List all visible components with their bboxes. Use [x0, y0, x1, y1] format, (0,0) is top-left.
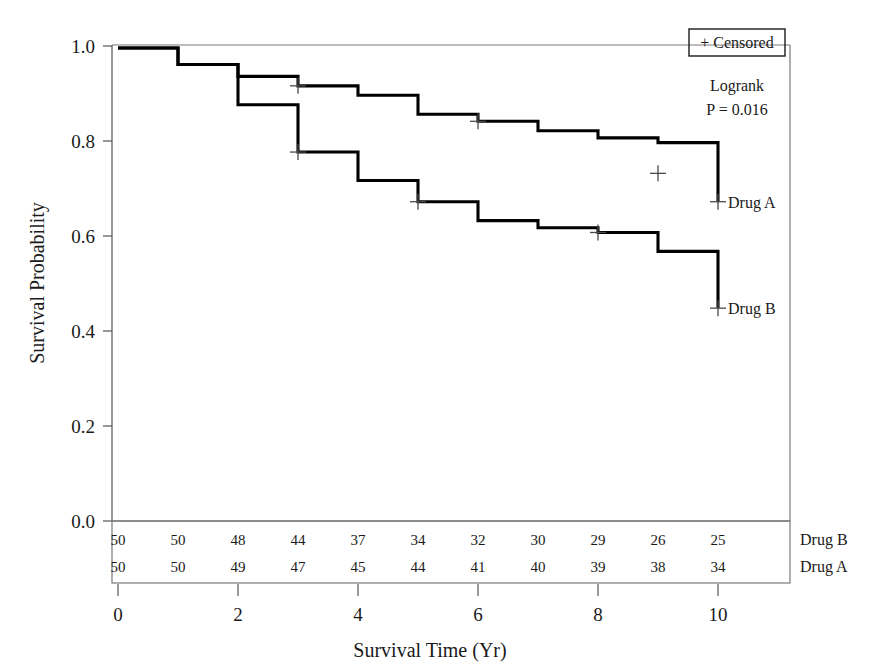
risk-table: 5050484437343230292625505049474544414039… [111, 521, 849, 583]
risk-count: 29 [591, 532, 606, 548]
y-tick-label-4: 0.8 [71, 131, 95, 152]
y-tick-group-2: 0.4 [71, 321, 112, 342]
series-label-drug-a: Drug A [728, 194, 776, 212]
risk-count: 26 [651, 532, 667, 548]
y-tick-group-3: 0.6 [71, 226, 112, 247]
survival-chart-figure: 0.0 0.2 0.4 0.6 0.8 1.0 Survival [0, 0, 889, 669]
y-axis-title: Survival Probability [26, 202, 49, 364]
curve-drug-a [118, 48, 718, 202]
risk-count: 50 [171, 559, 186, 575]
risk-count: 34 [411, 532, 427, 548]
x-tick-group-1: 2 [233, 584, 243, 625]
risk-row-label-drug-b: Drug B [800, 531, 848, 549]
y-tick-label-0: 0.0 [71, 511, 95, 532]
series-label-drug-b: Drug B [728, 300, 776, 318]
risk-count: 48 [231, 532, 246, 548]
statistics-annotation: Logrank P = 0.016 [706, 77, 767, 118]
risk-count: 32 [471, 532, 486, 548]
x-tick-label-4: 8 [593, 604, 603, 625]
plot-frame [112, 45, 790, 521]
risk-count: 34 [711, 559, 727, 575]
risk-table-numbers: 5050484437343230292625505049474544414039… [111, 532, 727, 575]
y-tick-label-3: 0.6 [71, 226, 95, 247]
risk-count: 47 [291, 559, 307, 575]
risk-count: 39 [591, 559, 606, 575]
kaplan-meier-plot: 0.0 0.2 0.4 0.6 0.8 1.0 Survival [0, 0, 889, 669]
x-axis: 0 2 4 6 8 10 Survival Time (Yr) [113, 584, 727, 662]
pvalue-label: P = 0.016 [706, 101, 767, 118]
legend: + Censored [689, 29, 785, 56]
curve-drug-b [118, 48, 718, 308]
risk-count: 44 [411, 559, 427, 575]
series-end-labels: Drug A Drug B [728, 194, 776, 318]
y-tick-group-5: 1.0 [71, 36, 112, 57]
risk-count: 50 [171, 532, 186, 548]
y-tick-label-5: 1.0 [71, 36, 95, 57]
x-tick-label-5: 10 [709, 604, 728, 625]
risk-count: 30 [531, 532, 546, 548]
risk-count: 40 [531, 559, 546, 575]
risk-count: 49 [231, 559, 246, 575]
risk-count: 37 [351, 532, 367, 548]
y-tick-group-1: 0.2 [71, 416, 112, 437]
x-tick-group-5: 10 [709, 584, 728, 625]
risk-count: 44 [291, 532, 307, 548]
x-tick-group-4: 8 [593, 584, 603, 625]
risk-count: 38 [651, 559, 666, 575]
x-tick-label-3: 6 [473, 604, 483, 625]
censor-marks-drug-b [290, 144, 726, 316]
x-tick-label-0: 0 [113, 604, 123, 625]
x-tick-group-2: 4 [353, 584, 363, 625]
risk-count: 45 [351, 559, 366, 575]
y-axis: 0.0 0.2 0.4 0.6 0.8 1.0 Survival [26, 36, 112, 532]
survival-curves [118, 48, 726, 316]
x-tick-group-0: 0 [113, 584, 123, 625]
risk-count: 25 [711, 532, 726, 548]
risk-table-box [112, 521, 790, 583]
risk-count: 41 [471, 559, 486, 575]
x-tick-label-1: 2 [233, 604, 243, 625]
logrank-label: Logrank [710, 77, 764, 95]
y-tick-group-4: 0.8 [71, 131, 112, 152]
legend-item-censored: + Censored [700, 34, 773, 51]
risk-row-label-drug-a: Drug A [800, 558, 848, 576]
y-tick-label-1: 0.2 [71, 416, 95, 437]
x-tick-label-2: 4 [353, 604, 363, 625]
risk-count: 50 [111, 559, 126, 575]
y-tick-group-0: 0.0 [71, 511, 112, 532]
risk-count: 50 [111, 532, 126, 548]
x-tick-group-3: 6 [473, 584, 483, 625]
x-axis-title: Survival Time (Yr) [353, 639, 506, 662]
y-tick-label-2: 0.4 [71, 321, 95, 342]
